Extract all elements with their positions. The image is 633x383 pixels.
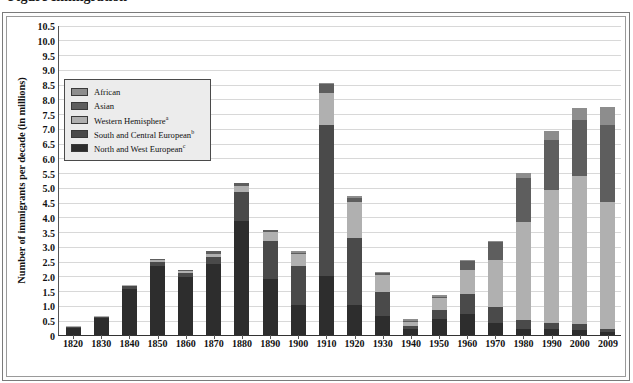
- bar-segment: [572, 330, 587, 335]
- y-axis-tick-label: 4.0: [43, 212, 56, 223]
- x-axis-tick-label: 2009: [598, 338, 618, 349]
- bar-segment: [291, 254, 306, 266]
- y-axis-tick-label: 6.0: [43, 153, 56, 164]
- bar-segment: [291, 266, 306, 306]
- figure-container: Figure Immigration Number of immigrants …: [0, 0, 633, 383]
- bar-segment: [488, 323, 503, 335]
- bar-stack: [375, 272, 390, 335]
- x-axis-tick-label: 1940: [401, 338, 421, 349]
- bar-segment: [347, 202, 362, 237]
- legend-footnote-marker: a: [166, 115, 169, 121]
- bar-segment: [291, 305, 306, 335]
- bar-stack: [488, 241, 503, 335]
- bar-segment: [488, 242, 503, 260]
- legend-item: Western Hemispherea: [71, 113, 204, 127]
- y-axis-tick-label: 6.5: [43, 139, 56, 150]
- legend-swatch-icon: [71, 116, 88, 124]
- y-axis-tick-label: 2.0: [43, 271, 56, 282]
- legend-item: Asian: [71, 99, 204, 113]
- bar-stack: [94, 316, 109, 335]
- bar-segment: [600, 202, 615, 329]
- bar-segment: [460, 261, 475, 270]
- y-axis-tick-label: 0.5: [43, 316, 56, 327]
- bar-segment: [432, 298, 447, 310]
- x-axis-tick-label: 1960: [457, 338, 477, 349]
- x-axis-tick-label: 1890: [260, 338, 280, 349]
- legend-swatch-icon: [71, 102, 88, 110]
- bar-stack: [178, 270, 193, 335]
- y-axis-tick-label: 1.0: [43, 301, 56, 312]
- bar-segment: [122, 289, 137, 335]
- bar-segment: [263, 232, 278, 241]
- x-axis-tick-label: 1970: [485, 338, 505, 349]
- bar-segment: [516, 222, 531, 319]
- bar-stack: [347, 196, 362, 335]
- y-axis-tick-label: 0: [50, 331, 55, 342]
- bar-segment: [234, 192, 249, 222]
- figure-title-text: Figure Immigration: [8, 0, 127, 5]
- gridline: [59, 26, 621, 27]
- bar-stack: [403, 319, 418, 335]
- bar-stack: [291, 251, 306, 335]
- bar-segment: [600, 125, 615, 202]
- gridline: [59, 217, 621, 218]
- gridline: [59, 276, 621, 277]
- legend-swatch-icon: [71, 130, 88, 138]
- bar-stack: [319, 83, 334, 335]
- legend-item: South and Central Europeanb: [71, 127, 204, 141]
- bar-segment: [600, 107, 615, 125]
- bar-stack: [234, 183, 249, 335]
- y-axis-tick-label: 5.5: [43, 168, 56, 179]
- gridline: [59, 247, 621, 248]
- bar-segment: [263, 241, 278, 279]
- x-axis-tick-label: 1880: [232, 338, 252, 349]
- bar-segment: [572, 108, 587, 120]
- bar-segment: [206, 264, 221, 335]
- bar-stack: [516, 173, 531, 335]
- y-axis-tick-label: 10.0: [38, 35, 56, 46]
- bar-segment: [347, 305, 362, 335]
- bar-stack: [122, 285, 137, 335]
- y-axis-tick-label: 7.5: [43, 109, 56, 120]
- x-axis-tick-label: 1930: [373, 338, 393, 349]
- bar-stack: [460, 260, 475, 335]
- bar-segment: [206, 257, 221, 264]
- legend-item-label: Asian: [94, 101, 114, 111]
- x-axis-tick-label: 1990: [542, 338, 562, 349]
- bar-segment: [319, 84, 334, 93]
- bar-segment: [347, 238, 362, 306]
- bar-segment: [375, 275, 390, 293]
- x-axis-tick-label: 1840: [119, 338, 139, 349]
- bar-segment: [150, 266, 165, 335]
- x-axis-tick-label: 1950: [429, 338, 449, 349]
- bar-segment: [544, 140, 559, 190]
- bar-segment: [432, 310, 447, 319]
- bar-segment: [403, 329, 418, 335]
- figure-title-clipped: Figure Immigration: [0, 0, 633, 10]
- legend-item: North and West Europeanc: [71, 141, 204, 155]
- gridline: [59, 291, 621, 292]
- y-axis-tick-label: 8.0: [43, 94, 56, 105]
- bar-segment: [460, 270, 475, 294]
- y-axis-tick-label: 9.5: [43, 50, 56, 61]
- bar-stack: [432, 295, 447, 335]
- bar-stack: [600, 107, 615, 335]
- bar-segment: [319, 93, 334, 125]
- gridline: [59, 321, 621, 322]
- chart-legend: AfricanAsianWestern HemisphereaSouth and…: [64, 79, 211, 161]
- y-axis-tick-label: 8.5: [43, 80, 56, 91]
- bar-segment: [544, 329, 559, 335]
- bar-segment: [375, 292, 390, 316]
- bar-segment: [66, 328, 81, 335]
- bar-stack: [206, 251, 221, 335]
- gridline: [59, 173, 621, 174]
- y-axis-title: Number of immigrants per decade (in mill…: [16, 56, 27, 306]
- bar-segment: [319, 276, 334, 335]
- bar-segment: [544, 190, 559, 323]
- bar-stack: [263, 230, 278, 335]
- bar-segment: [516, 329, 531, 335]
- bar-segment: [319, 125, 334, 276]
- bar-stack: [572, 108, 587, 335]
- bar-segment: [516, 320, 531, 329]
- bar-stack: [66, 326, 81, 335]
